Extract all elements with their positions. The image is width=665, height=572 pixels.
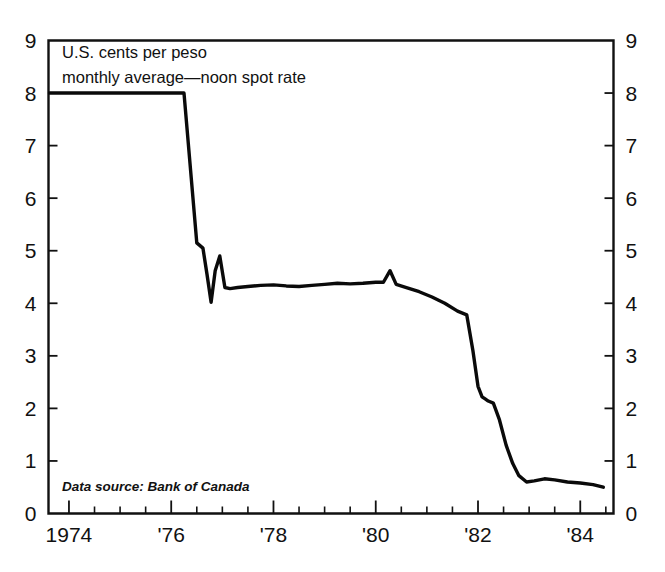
- y-axis-label-left-4: 4: [25, 292, 37, 315]
- y-axis-label-left-0: 0: [25, 502, 37, 525]
- y-axis-label-right-2: 2: [626, 397, 638, 420]
- y-axis-label-left-1: 1: [25, 449, 37, 472]
- y-axis-label-right-1: 1: [626, 449, 638, 472]
- x-axis-label-1974: 1974: [46, 523, 93, 546]
- plot-frame: [49, 41, 614, 514]
- exchange-rate-chart: 0123456789 0123456789 1974'76'78'80'82'8…: [0, 0, 665, 572]
- y-axis-label-left-3: 3: [25, 344, 37, 367]
- y-axis-label-left-7: 7: [25, 134, 37, 157]
- y-axis-label-right-6: 6: [626, 187, 638, 210]
- x-axis-label-76: '76: [158, 523, 185, 546]
- y-axis-ticks-left: [49, 93, 58, 461]
- chart-canvas: 0123456789 0123456789 1974'76'78'80'82'8…: [0, 0, 665, 572]
- y-axis-label-right-9: 9: [626, 29, 638, 52]
- y-axis-label-left-9: 9: [25, 29, 37, 52]
- y-axis-label-left-2: 2: [25, 397, 37, 420]
- y-axis-label-right-3: 3: [626, 344, 638, 367]
- x-axis-label-82: '82: [464, 523, 491, 546]
- x-axis-label-80: '80: [362, 523, 389, 546]
- x-axis-labels: 1974'76'78'80'82'84: [46, 523, 595, 546]
- y-axis-labels-right: 0123456789: [626, 29, 638, 525]
- y-axis-label-left-8: 8: [25, 82, 37, 105]
- y-axis-label-left-6: 6: [25, 187, 37, 210]
- y-axis-label-left-5: 5: [25, 239, 37, 262]
- data-source-annotation: Data source: Bank of Canada: [62, 479, 250, 494]
- chart-title: U.S. cents per peso: [62, 43, 207, 61]
- y-axis-labels-left: 0123456789: [25, 29, 37, 525]
- x-axis-label-78: '78: [260, 523, 287, 546]
- data-series-line: [50, 93, 604, 487]
- x-axis-label-84: '84: [567, 523, 595, 546]
- y-axis-label-right-8: 8: [626, 82, 638, 105]
- y-axis-label-right-4: 4: [626, 292, 638, 315]
- y-axis-label-right-7: 7: [626, 134, 638, 157]
- chart-subtitle: monthly average—noon spot rate: [62, 68, 306, 86]
- y-axis-label-right-0: 0: [626, 502, 638, 525]
- axis-frame: [49, 41, 614, 514]
- y-axis-label-right-5: 5: [626, 239, 638, 262]
- y-axis-ticks-right: [605, 93, 614, 461]
